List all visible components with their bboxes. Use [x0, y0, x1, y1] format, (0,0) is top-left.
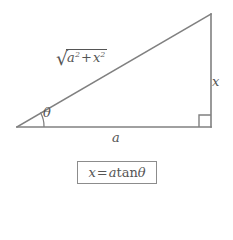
angle-label-theta: θ	[43, 106, 51, 119]
formula-text: x=atanθ	[88, 166, 145, 179]
hypotenuse-label: √a2+x2	[56, 49, 107, 67]
formula-box: x=atanθ	[77, 161, 157, 184]
radicand: a2+x2	[66, 49, 107, 64]
formula-function: tan	[116, 165, 137, 180]
radicand-term-a: a	[67, 50, 75, 65]
horizontal-side-label: a	[112, 131, 120, 144]
formula-argument: θ	[138, 165, 146, 180]
formula-equals: =	[96, 165, 109, 180]
formula-lhs: x	[88, 165, 95, 180]
vertical-side-label: x	[212, 75, 219, 88]
radicand-exponent-x: 2	[100, 50, 105, 59]
radical-expression: √a2+x2	[56, 49, 107, 67]
radicand-operator: +	[80, 50, 93, 65]
right-angle-marker	[199, 115, 211, 127]
